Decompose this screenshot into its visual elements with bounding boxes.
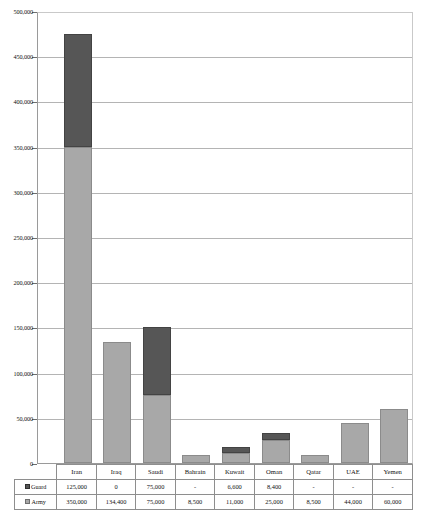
data-table: IranIraqSaudiBahrainKuwaitOmanQatarUAEYe…	[14, 464, 413, 510]
y-tick-label: 50,000	[0, 415, 33, 422]
legend-label: Guard	[31, 484, 46, 490]
table-row: Guard125,000075,000-6,6008,400---	[15, 480, 413, 495]
x-axis-category-label: Iraq	[96, 465, 136, 480]
bar-segment-army	[380, 409, 408, 463]
table-header-row: IranIraqSaudiBahrainKuwaitOmanQatarUAEYe…	[15, 465, 413, 480]
table-cell: 125,000	[57, 480, 97, 495]
guard-swatch-icon	[25, 484, 30, 489]
bar-column	[222, 11, 250, 463]
bar-series-group	[38, 13, 412, 463]
bar-column	[301, 11, 329, 463]
y-tick-label: 200,000	[0, 279, 33, 286]
army-swatch-icon	[25, 499, 30, 504]
table-row: Army350,000134,40075,0008,50011,00025,00…	[15, 495, 413, 510]
x-axis-category-label: Iran	[57, 465, 97, 480]
x-axis-category-label: Kuwait	[215, 465, 255, 480]
table-cell: 44,000	[333, 495, 373, 510]
table-cell: -	[175, 480, 215, 495]
y-tick-label: 300,000	[0, 189, 33, 196]
x-axis-category-label: Yemen	[373, 465, 413, 480]
y-tick-label: 500,000	[0, 8, 33, 15]
legend-entry-guard: Guard	[15, 480, 57, 495]
bar-segment-army	[222, 453, 250, 463]
bar-segment-guard	[222, 447, 250, 453]
y-tick-label: 100,000	[0, 370, 33, 377]
table-cell: 350,000	[57, 495, 97, 510]
table-cell: 75,000	[136, 495, 176, 510]
table-cell: 11,000	[215, 495, 255, 510]
bar-segment-guard	[143, 327, 171, 395]
x-axis-category-label: Oman	[254, 465, 294, 480]
table-corner-cell	[15, 465, 57, 480]
y-tick-label: 350,000	[0, 144, 33, 151]
table-cell: 134,400	[96, 495, 136, 510]
x-axis-category-label: Saudi	[136, 465, 176, 480]
table-cell: 0	[96, 480, 136, 495]
table-cell: -	[333, 480, 373, 495]
table-cell: -	[373, 480, 413, 495]
table-cell: 8,500	[175, 495, 215, 510]
bar-segment-army	[143, 395, 171, 463]
bar-column	[341, 11, 369, 463]
y-tick-label: 250,000	[0, 234, 33, 241]
bar-segment-army	[103, 342, 131, 463]
bar-segment-army	[64, 147, 92, 463]
table-cell: -	[294, 480, 334, 495]
table-cell: 25,000	[254, 495, 294, 510]
table-cell: 60,000	[373, 495, 413, 510]
bar-segment-army	[262, 440, 290, 463]
x-axis-category-label: Qatar	[294, 465, 334, 480]
y-tick-label: 450,000	[0, 53, 33, 60]
bar-column	[380, 11, 408, 463]
bar-segment-guard	[262, 433, 290, 441]
y-tick-label: 400,000	[0, 98, 33, 105]
x-axis-category-label: Bahrain	[175, 465, 215, 480]
bar-column	[103, 11, 131, 463]
table-cell: 8,500	[294, 495, 334, 510]
table-cell: 75,000	[136, 480, 176, 495]
bar-segment-guard	[64, 34, 92, 147]
legend-label: Army	[31, 499, 45, 505]
bar-segment-army	[341, 423, 369, 463]
plot-area	[37, 12, 413, 464]
bar-column	[143, 11, 171, 463]
table-cell: 6,600	[215, 480, 255, 495]
bar-column	[262, 11, 290, 463]
bar-column	[64, 11, 92, 463]
bar-column	[182, 11, 210, 463]
legend-entry-army: Army	[15, 495, 57, 510]
y-tick-label: 150,000	[0, 324, 33, 331]
bar-segment-army	[182, 455, 210, 463]
bar-segment-army	[301, 455, 329, 463]
x-axis-category-label: UAE	[333, 465, 373, 480]
chart-figure: 500,000450,000400,000350,000300,000250,0…	[0, 0, 426, 519]
table-cell: 8,400	[254, 480, 294, 495]
